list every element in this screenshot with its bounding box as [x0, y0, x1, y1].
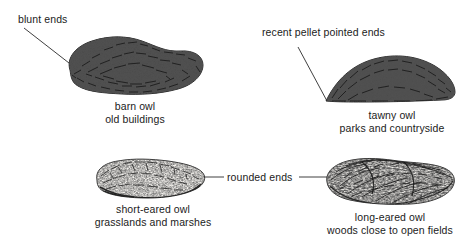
caption-short-eared-owl: short-eared owl grasslands and marshes: [83, 203, 223, 228]
short-eared-owl-pellet: [90, 153, 212, 203]
caption-barn-owl: barn owl old buildings: [65, 100, 205, 125]
callout-recent-pellet-line2: pointed ends: [324, 26, 385, 38]
species-name-long-eared-owl: long-eared owl: [312, 211, 468, 224]
callout-rounded-ends: rounded ends: [227, 171, 292, 184]
leader-line-recent-pellet: [298, 47, 327, 101]
species-name-short-eared-owl: short-eared owl: [83, 203, 223, 216]
habitat-barn-owl: old buildings: [65, 113, 205, 126]
caption-tawny-owl: tawny owl parks and countryside: [320, 109, 464, 134]
callout-recent-pellet-line1: recent pellet: [262, 26, 321, 38]
leader-line-blunt-ends: [24, 28, 69, 63]
caption-long-eared-owl: long-eared owl woods close to open field…: [312, 211, 468, 236]
long-eared-owl-pellet: [320, 152, 462, 210]
owl-pellet-figure: blunt ends recent pellet pointed ends ro…: [0, 0, 468, 249]
habitat-short-eared-owl: grasslands and marshes: [83, 216, 223, 229]
species-name-tawny-owl: tawny owl: [320, 109, 464, 122]
habitat-long-eared-owl: woods close to open fields: [312, 224, 468, 237]
habitat-tawny-owl: parks and countryside: [320, 122, 464, 135]
barn-owl-pellet: [60, 30, 215, 105]
tawny-owl-pellet: [318, 50, 463, 110]
species-name-barn-owl: barn owl: [65, 100, 205, 113]
callout-blunt-ends: blunt ends: [18, 13, 67, 26]
callout-recent-pellet: recent pellet pointed ends: [262, 26, 385, 39]
